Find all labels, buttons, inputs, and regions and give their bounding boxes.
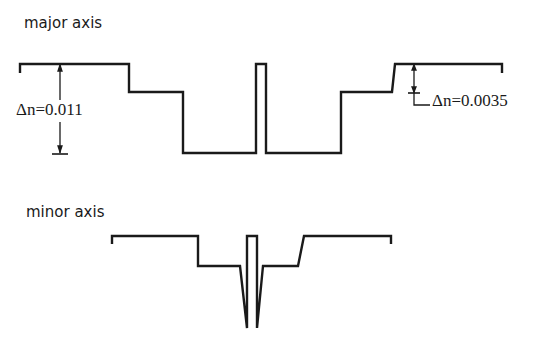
arrowhead-up-icon [58, 65, 62, 71]
major-axis-profile [20, 64, 502, 153]
leader-line [414, 93, 430, 105]
minor-axis-profile [112, 236, 391, 328]
refractive-index-profile-diagram [0, 0, 542, 346]
arrowhead-up-icon [412, 65, 416, 70]
arrowhead-down-icon [412, 87, 416, 92]
arrowhead-down-icon [58, 146, 62, 152]
